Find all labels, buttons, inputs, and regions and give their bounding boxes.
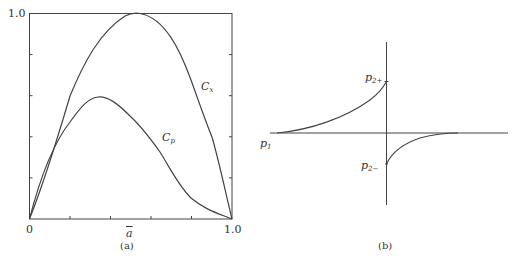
p1-label: p1 [260, 138, 272, 151]
p2minus-label-main: p [361, 159, 368, 172]
p2minus-label-sub: 2− [368, 165, 378, 173]
p2minus-point [385, 163, 387, 165]
p2minus-label: p2− [361, 160, 378, 173]
panel-a-x-end-label: 1.0 [224, 224, 242, 235]
cp-curve [30, 97, 233, 219]
cp-label-sub: p [170, 137, 174, 145]
panel-b-caption: (b) [378, 241, 392, 251]
cp-label: Cp [162, 132, 175, 145]
p2plus-label: p2+ [365, 72, 382, 85]
p2plus-curve [277, 82, 387, 134]
cx-label-sub: x [209, 86, 213, 94]
figure-canvas [0, 0, 515, 260]
panel-a-x-origin-label: 0 [26, 224, 33, 235]
p2plus-label-main: p [365, 71, 372, 84]
p2minus-curve [387, 133, 459, 164]
p2plus-label-sub: 2+ [372, 77, 382, 85]
panel-a-caption: (a) [120, 241, 134, 251]
p1-label-sub: 1 [267, 143, 271, 151]
p1-label-main: p [260, 137, 267, 150]
panel-a-y-top-label: 1.0 [8, 8, 26, 19]
cx-label: Cx [201, 81, 213, 94]
panel-a-x-axis-label: a [126, 228, 133, 239]
